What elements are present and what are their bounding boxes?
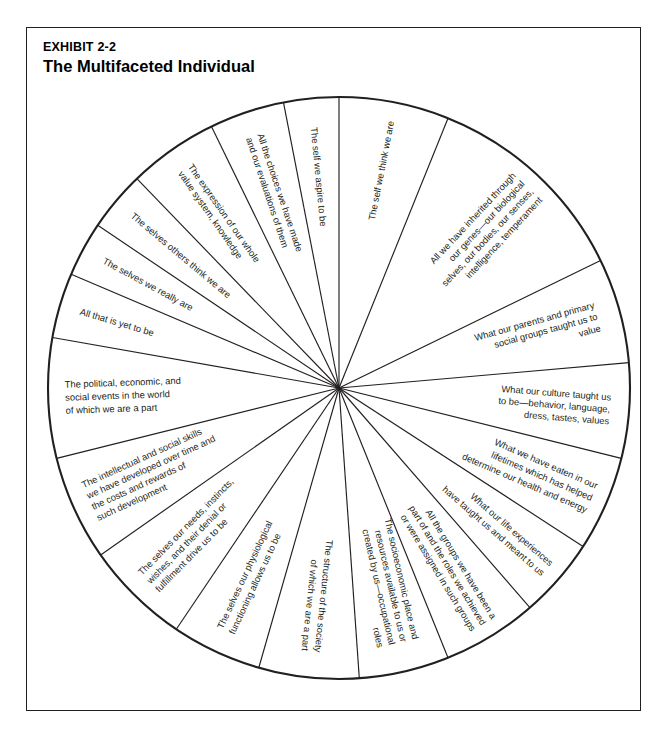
multifaceted-individual-wheel: The self we think we areAll we have inhe… <box>27 28 642 712</box>
exhibit-frame: EXHIBIT 2-2 The Multifaceted Individual … <box>26 27 641 711</box>
